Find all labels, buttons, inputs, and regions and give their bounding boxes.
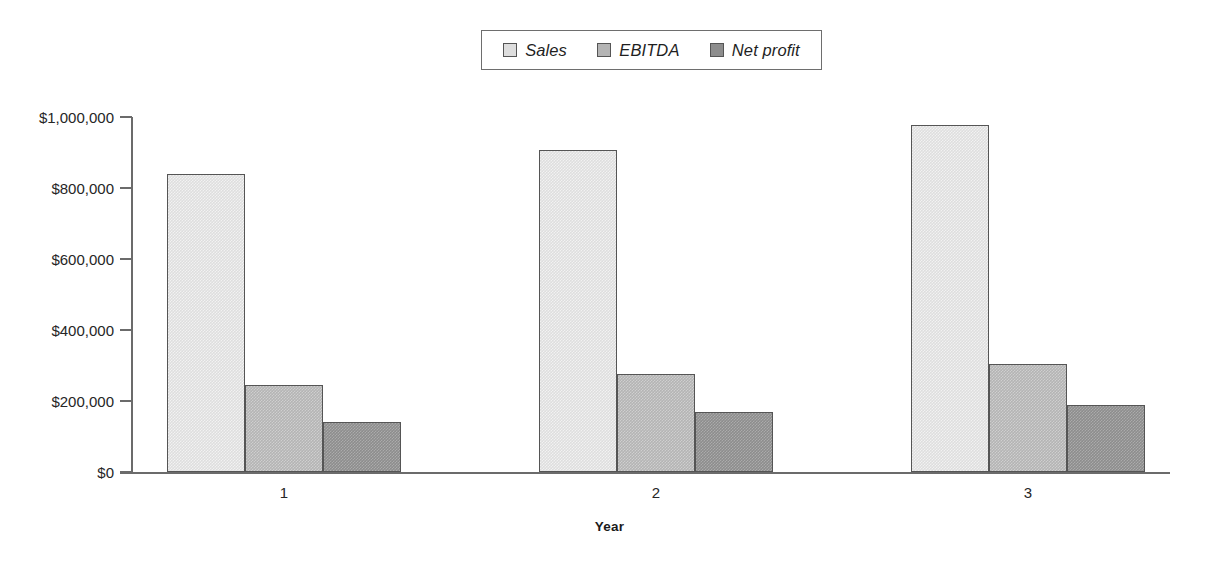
x-axis-line — [120, 472, 1170, 474]
plot-area: $0$200,000$400,000$600,000$800,000$1,000… — [0, 0, 1211, 567]
bar-net-profit-year-3 — [1067, 405, 1145, 472]
y-axis-tick — [120, 400, 132, 402]
bar-chart: Sales EBITDA Net profit $0$200,000$400,0… — [0, 0, 1211, 567]
y-axis-tick-label: $800,000 — [51, 180, 114, 197]
y-axis-tick-label: $200,000 — [51, 393, 114, 410]
y-axis-tick-label: $600,000 — [51, 251, 114, 268]
x-axis-tick-label: 1 — [280, 484, 288, 501]
y-axis-tick — [120, 329, 132, 331]
bar-ebitda-year-1 — [245, 385, 323, 472]
bar-net-profit-year-2 — [695, 412, 773, 472]
x-axis-title-text: Year — [595, 519, 624, 534]
bar-ebitda-year-3 — [989, 364, 1067, 472]
bar-sales-year-1 — [167, 174, 245, 472]
bar-sales-year-2 — [539, 150, 617, 472]
y-axis-line — [131, 117, 133, 473]
y-axis-tick-label: $1,000,000 — [39, 109, 114, 126]
bar-ebitda-year-2 — [617, 374, 695, 472]
y-axis-tick — [120, 471, 132, 473]
x-axis-tick-label: 3 — [1024, 484, 1032, 501]
y-axis-tick-label: $0 — [97, 464, 114, 481]
bar-net-profit-year-1 — [323, 422, 401, 472]
y-axis-tick — [120, 258, 132, 260]
y-axis-tick — [120, 187, 132, 189]
y-axis-tick-label: $400,000 — [51, 322, 114, 339]
y-axis-tick — [120, 116, 132, 118]
x-axis-title: Year — [0, 519, 1211, 534]
bar-sales-year-3 — [911, 125, 989, 472]
x-axis-tick-label: 2 — [652, 484, 660, 501]
